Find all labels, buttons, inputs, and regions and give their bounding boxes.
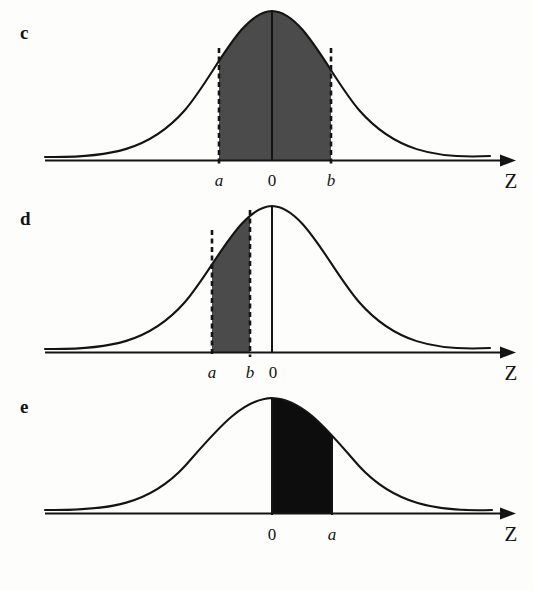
panel-d-plot: a b 0 Z	[0, 190, 533, 387]
axis-arrowhead-d	[500, 347, 516, 359]
normal-curve-d	[45, 206, 490, 349]
axis-label-z-e: Z	[505, 522, 518, 546]
tick-label-a-c: a	[215, 171, 224, 190]
tick-label-zero-e: 0	[268, 525, 277, 544]
panel-e: e 0 a Z	[0, 380, 533, 591]
axis-arrowhead-c	[500, 155, 516, 167]
shaded-area-d	[45, 206, 492, 352]
panel-d: d a b 0 Z	[0, 190, 533, 387]
tick-label-a-e: a	[328, 525, 337, 544]
normal-curve-e	[45, 398, 492, 510]
shaded-area-c	[45, 11, 492, 160]
tick-label-zero-c: 0	[268, 171, 277, 190]
shaded-area-e	[45, 398, 492, 513]
panel-c-plot: a 0 b Z	[0, 0, 533, 197]
tick-label-b-c: b	[327, 171, 336, 190]
axis-arrowhead-e	[500, 508, 516, 520]
figure-container: c a 0 b Z	[0, 0, 533, 591]
panel-e-plot: 0 a Z	[0, 380, 533, 591]
panel-c: c a 0 b Z	[0, 0, 533, 197]
